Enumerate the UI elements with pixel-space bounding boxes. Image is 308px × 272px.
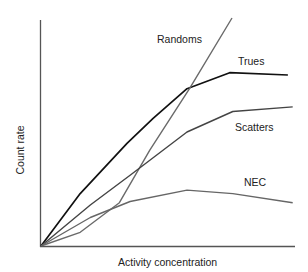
series-nec-line xyxy=(41,190,293,246)
series-trues-line xyxy=(41,73,288,246)
label-trues: Trues xyxy=(238,55,264,67)
chart-plot xyxy=(0,0,308,272)
y-axis-label: Count rate xyxy=(14,125,26,174)
x-axis-label: Activity concentration xyxy=(118,256,217,268)
label-randoms: Randoms xyxy=(157,33,202,45)
label-scatters: Scatters xyxy=(235,121,274,133)
label-nec: NEC xyxy=(244,176,266,188)
series-randoms-line xyxy=(41,18,232,246)
